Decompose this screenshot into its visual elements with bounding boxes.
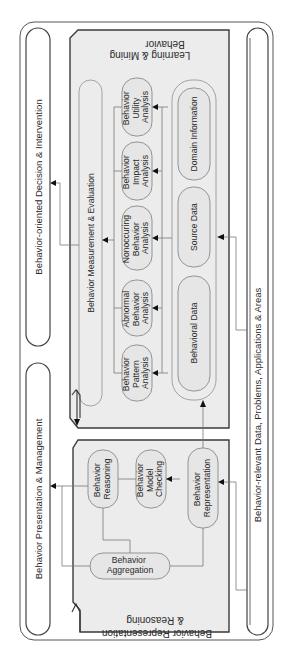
representation-reasoning-title-line2: Behavior Representation bbox=[102, 628, 212, 639]
decision-intervention-layer: Behavior-oriented Decision & Interventio… bbox=[26, 28, 50, 346]
node-behavior-aggregation: Behavior Aggregation bbox=[90, 553, 170, 579]
measurement-evaluation-label: Behavior Measurement & Evaluation bbox=[86, 173, 96, 313]
analysis-node-utility: Behavior Utility Analysis bbox=[121, 78, 152, 136]
data-source-behavioral-data: Behavioral Data bbox=[178, 276, 210, 391]
data-source-source-data: Source Data bbox=[178, 187, 210, 267]
learning-mining-title: Learning & Mining bbox=[110, 50, 191, 61]
presentation-management-layer: Behavior Presentation & Management bbox=[26, 363, 50, 635]
node-behavior-representation: Behavior Representation bbox=[188, 448, 218, 528]
svg-text:Abnormal Behavior: Abnormal Behavior Analysis bbox=[121, 288, 150, 327]
node-behavior-model-checking: Behavior Model Checking bbox=[135, 450, 166, 508]
behavior-relevant-data-layer: Behavior-relevant Data, Problems, Applic… bbox=[247, 28, 268, 635]
learning-mining-title-line1: Behavior bbox=[145, 39, 185, 50]
svg-text:Behavior Model: Behavior Model Checking bbox=[135, 461, 164, 497]
decision-intervention-label: Behavior-oriented Decision & Interventio… bbox=[33, 99, 44, 274]
svg-text:Behavior Impact: Behavior Impact Analysis bbox=[121, 153, 150, 189]
node-behavior-reasoning: Behavior Reasoning bbox=[88, 450, 118, 508]
presentation-management-label: Behavior Presentation & Management bbox=[33, 418, 44, 579]
analysis-node-nonoccuring: Nonoccuring Behavior Analysis bbox=[121, 206, 152, 270]
svg-text:Behavior Reasoning: Behavior Reasoning bbox=[92, 458, 112, 499]
data-source-domain-information: Domain Information bbox=[178, 88, 210, 180]
representation-reasoning-title: & Reasoning bbox=[126, 615, 183, 626]
svg-text:Behavior Pattern: Behavior Pattern Analysis bbox=[121, 355, 150, 391]
svg-text:Source Data: Source Data bbox=[189, 203, 199, 251]
analysis-node-impact: Behavior Impact Analysis bbox=[121, 142, 152, 200]
learning-mining-panel: Learning & Mining Behavior Behavior Meas… bbox=[70, 30, 229, 428]
svg-text:Domain Information: Domain Information bbox=[189, 96, 199, 171]
analysis-node-pattern: Behavior Pattern Analysis bbox=[121, 345, 152, 401]
svg-text:Behavior Aggregation: Behavior Aggregation bbox=[107, 555, 154, 575]
behavior-framework-diagram: Behavior-oriented Decision & Interventio… bbox=[0, 0, 287, 659]
behavior-relevant-data-label: Behavior-relevant Data, Problems, Applic… bbox=[252, 288, 263, 523]
svg-text:Behavioral Data: Behavioral Data bbox=[189, 302, 199, 363]
analysis-node-abnormal: Abnormal Behavior Analysis bbox=[121, 280, 152, 336]
